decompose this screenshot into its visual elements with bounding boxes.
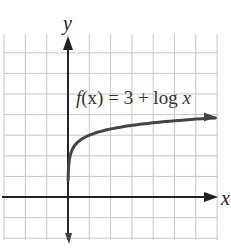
curve-arrow-icon: [204, 113, 216, 122]
x-axis-arrow-icon: [204, 192, 218, 202]
function-label: f(x) = 3 + log x: [76, 87, 191, 109]
y-axis-arrow-icon: [63, 36, 73, 50]
chart-canvas: y x f(x) = 3 + log x: [0, 0, 231, 248]
y-axis-label: y: [61, 12, 72, 35]
function-curve: [68, 118, 215, 181]
x-axis-label: x: [220, 187, 230, 209]
grid-lines: [4, 34, 218, 240]
